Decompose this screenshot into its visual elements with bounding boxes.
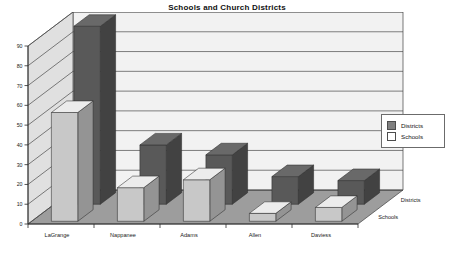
bar-schools-lagrange[interactable] [51, 101, 93, 221]
svg-text:Schools: Schools [378, 214, 398, 220]
svg-text:Districts: Districts [401, 197, 421, 203]
svg-text:20: 20 [17, 181, 23, 187]
svg-text:60: 60 [17, 102, 23, 108]
svg-text:30: 30 [17, 162, 23, 168]
legend-swatch-districts [387, 121, 396, 130]
svg-text:Adams: Adams [180, 232, 198, 238]
legend-item-districts[interactable]: Districts [387, 121, 440, 130]
svg-text:Daviess: Daviess [311, 232, 331, 238]
chart-legend: Districts Schools [381, 114, 445, 148]
svg-text:80: 80 [17, 63, 23, 69]
legend-swatch-schools [387, 132, 396, 141]
legend-label-districts: Districts [401, 122, 423, 129]
legend-label-schools: Schools [401, 133, 423, 140]
svg-text:LaGrange: LaGrange [45, 232, 70, 238]
svg-text:40: 40 [17, 142, 23, 148]
chart-title: Schools and Church Districts [0, 3, 454, 12]
svg-text:50: 50 [17, 122, 23, 128]
svg-text:0: 0 [20, 221, 23, 227]
svg-text:10: 10 [17, 201, 23, 207]
svg-text:Allen: Allen [249, 232, 261, 238]
bar-schools-adams[interactable] [183, 168, 225, 221]
svg-text:70: 70 [17, 83, 23, 89]
bar-schools-nappanee[interactable] [117, 176, 159, 221]
svg-text:90: 90 [17, 43, 23, 49]
svg-text:Nappanee: Nappanee [110, 232, 136, 238]
chart-container: Schools and Church Districts 01020304050… [0, 0, 454, 275]
legend-item-schools[interactable]: Schools [387, 132, 440, 141]
